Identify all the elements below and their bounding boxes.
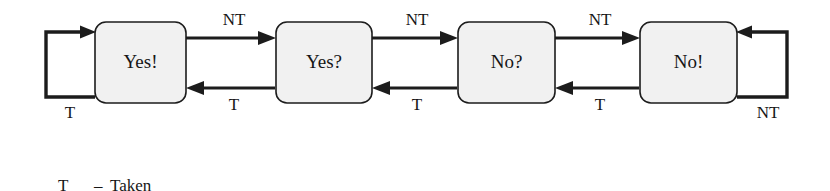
self-loop-label-no-strong: NT: [757, 103, 780, 122]
self-loop-yes-strong-arrowhead: [80, 26, 96, 39]
self-loop-no-strong-arrowhead: [736, 26, 752, 39]
transition-t1-forward-arrowhead: [258, 31, 276, 45]
transition-t3-back: [555, 81, 639, 95]
state-node-no-strong[interactable]: No!: [640, 22, 737, 103]
self-loop-no-strong-path: [737, 32, 787, 97]
state-label-no-weak: No?: [491, 51, 523, 72]
legend-key-t: T: [58, 175, 94, 191]
state-node-yes-weak[interactable]: Yes?: [276, 22, 372, 103]
edge-label-t3-forward: NT: [589, 10, 612, 29]
legend-row-taken: T – Taken: [58, 175, 177, 191]
edge-label-t3-back: T: [595, 95, 606, 114]
transition-t1-forward: [186, 31, 276, 45]
transition-t2-back: [372, 81, 457, 95]
edge-label-t1-back: T: [229, 95, 240, 114]
legend-dash-t: –: [94, 175, 110, 191]
edge-label-t2-forward: NT: [406, 10, 429, 29]
diagram-canvas: Yes! Yes? No? No! NT T NT T NT T T NT T …: [0, 0, 830, 191]
transition-t2-forward: [372, 31, 458, 45]
transition-t2-forward-arrowhead: [440, 31, 458, 45]
state-label-no-strong: No!: [674, 51, 704, 72]
transition-t3-forward: [555, 31, 640, 45]
state-node-no-weak[interactable]: No?: [458, 22, 555, 103]
self-loop-no-strong: [736, 26, 787, 98]
legend: T – Taken NT – Not taken: [58, 131, 177, 191]
edge-label-t1-forward: NT: [223, 10, 246, 29]
transition-t1-back: [186, 81, 275, 95]
transition-t1-back-arrowhead: [186, 81, 204, 95]
transition-t2-back-arrowhead: [372, 81, 390, 95]
state-label-yes-strong: Yes!: [124, 51, 158, 72]
state-label-yes-weak: Yes?: [306, 51, 342, 72]
transition-t3-forward-arrowhead: [622, 31, 640, 45]
legend-meaning-t: Taken: [110, 175, 151, 191]
self-loop-yes-strong: [46, 26, 96, 98]
self-loop-label-yes-strong: T: [65, 103, 76, 122]
state-node-yes-strong[interactable]: Yes!: [95, 22, 186, 103]
transition-t3-back-arrowhead: [555, 81, 573, 95]
self-loop-yes-strong-path: [46, 32, 95, 97]
edge-label-t2-back: T: [412, 95, 423, 114]
